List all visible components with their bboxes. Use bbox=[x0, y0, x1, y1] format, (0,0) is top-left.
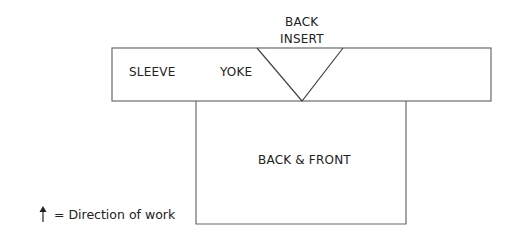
up-arrow-icon bbox=[38, 206, 48, 222]
yoke-label: YOKE bbox=[220, 65, 252, 79]
back-insert-triangle bbox=[257, 48, 343, 101]
back-insert-label-line1: BACK bbox=[285, 15, 318, 29]
sleeve-label: SLEEVE bbox=[129, 65, 175, 79]
back-front-label: BACK & FRONT bbox=[258, 153, 351, 167]
back-insert-label-line2: INSERT bbox=[280, 32, 324, 46]
legend: = Direction of work bbox=[38, 206, 175, 222]
legend-text: = Direction of work bbox=[54, 207, 175, 222]
